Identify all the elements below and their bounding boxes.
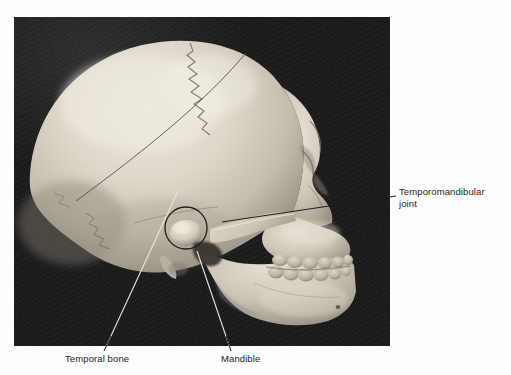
skull-photograph — [14, 17, 390, 346]
mental-foramen — [336, 305, 341, 309]
frontal-highlight — [162, 55, 258, 115]
maxilla-highlight — [280, 221, 340, 245]
skull-anatomy-figure: Temporomandibular joint Temporal bone Ma… — [0, 0, 511, 375]
styloid-shadow — [168, 262, 188, 276]
label-temporomandibular-joint: Temporomandibular joint — [399, 186, 507, 209]
label-mandible: Mandible — [221, 353, 260, 365]
mandible-highlight — [260, 281, 348, 317]
condyle-highlight — [173, 222, 191, 234]
label-temporal-bone: Temporal bone — [65, 353, 129, 365]
skull-illustration — [14, 17, 390, 346]
